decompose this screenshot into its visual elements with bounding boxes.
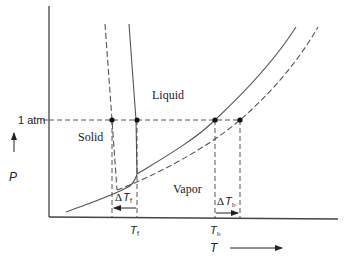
svg-text:b: b: [232, 201, 236, 209]
svg-text:f: f: [130, 197, 132, 204]
melting-curve-pure: [129, 24, 137, 174]
solid-label: Solid: [78, 130, 103, 144]
vaporization-curve-solution: [117, 27, 318, 190]
point-freeze-pure: [134, 117, 139, 122]
svg-text:Δ: Δ: [217, 195, 224, 207]
tf-label: T f: [130, 224, 139, 237]
tb-label: T b: [210, 224, 221, 238]
point-boil-pure: [212, 117, 217, 122]
point-boil-solution: [237, 117, 242, 122]
delta-tf-label: Δ T f: [115, 191, 132, 204]
t-axis-label: T: [210, 241, 219, 255]
delta-tb-label: Δ T b: [217, 195, 236, 209]
svg-text:b: b: [217, 230, 221, 238]
one-atm-label: 1 atm: [18, 114, 46, 126]
vapor-label: Vapor: [173, 182, 202, 196]
x-axis: [49, 217, 338, 219]
phase-diagram: 1 atm Liquid Solid Vapor P T T f T b Δ T…: [0, 0, 344, 260]
liquid-label: Liquid: [152, 88, 184, 102]
melting-curve-solution: [105, 24, 117, 190]
point-freeze-solution: [109, 117, 114, 122]
svg-text:Δ: Δ: [115, 191, 122, 203]
svg-text:f: f: [137, 230, 139, 237]
p-axis-label: P: [9, 170, 17, 184]
